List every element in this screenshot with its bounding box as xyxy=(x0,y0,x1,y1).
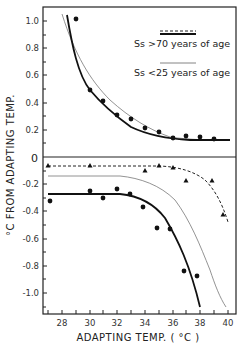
ytick-neg-0.6: -0.6 xyxy=(22,234,39,244)
ytick-0.4: 0.4 xyxy=(25,98,39,108)
ytick-neg-0.2: -0.2 xyxy=(22,179,39,189)
legend-label-young: Ss <25 years of age xyxy=(134,67,230,78)
lower-young-curve xyxy=(48,176,226,307)
upper-old-points xyxy=(74,17,217,142)
xtick-30: 30 xyxy=(85,318,96,328)
ytick-0.2: 0.2 xyxy=(25,125,39,135)
ytick-0.8: 0.8 xyxy=(25,43,39,53)
ytick-neg-1.0: -1.0 xyxy=(22,288,39,298)
lower-y-tick-labels: -0.2 -0.4 -0.6 -0.8 -1.0 xyxy=(22,179,39,298)
xtick-32: 32 xyxy=(112,318,123,328)
ytick-neg-0.8: -0.8 xyxy=(22,261,39,271)
xtick-36: 36 xyxy=(168,318,179,328)
xtick-38: 38 xyxy=(195,318,206,328)
lower-triangle-points xyxy=(46,163,226,217)
ytick-1.0: 1.0 xyxy=(25,16,39,26)
x-tick-labels: 28 30 32 34 36 38 40 xyxy=(57,318,234,328)
plot-frame xyxy=(43,7,236,314)
xtick-34: 34 xyxy=(140,318,151,328)
xtick-40: 40 xyxy=(223,318,234,328)
ytick-zero: 0 xyxy=(31,152,38,165)
ytick-0.6: 0.6 xyxy=(25,70,39,80)
lower-old-curve xyxy=(48,194,200,307)
y-axis-title: °C FROM ADAPTING TEMP. xyxy=(5,94,16,236)
legend-label-old: Ss >70 years of age xyxy=(134,38,230,49)
upper-y-tick-labels: 1.0 0.8 0.6 0.4 0.2 xyxy=(25,16,39,135)
lower-old-points xyxy=(48,187,200,279)
xtick-28: 28 xyxy=(57,318,68,328)
legend: Ss >70 years of age Ss <25 years of age xyxy=(134,31,230,78)
x-axis-title: ADAPTING TEMP. ( °C ) xyxy=(76,332,199,343)
chart-svg: 1.0 0.8 0.6 0.4 0.2 0 -0.2 -0.4 -0.6 -0.… xyxy=(0,0,240,347)
ytick-neg-0.4: -0.4 xyxy=(22,206,39,216)
